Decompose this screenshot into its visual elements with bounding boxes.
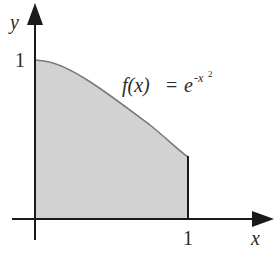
x-axis-arrow-icon: [252, 211, 274, 227]
x-tick-label: 1: [183, 227, 193, 249]
y-axis-label: y: [8, 11, 19, 34]
formula-exponent-power: 2: [208, 69, 213, 79]
formula-exponent: -x: [194, 71, 204, 85]
formula-lhs: f(x): [122, 74, 150, 97]
formula-equals: =: [166, 74, 177, 96]
integral-diagram: y 1 1 x f(x) = e -x 2: [0, 0, 278, 275]
y-axis-arrow-icon: [27, 3, 43, 25]
formula-base: e: [184, 74, 193, 96]
y-tick-label: 1: [15, 49, 25, 71]
function-formula: f(x) = e -x 2: [122, 69, 213, 97]
x-axis-label: x: [250, 227, 260, 249]
